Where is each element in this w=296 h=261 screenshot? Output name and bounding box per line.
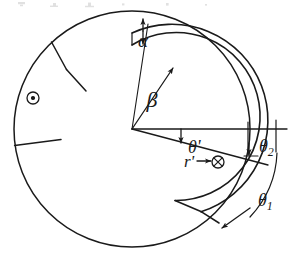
sector-divider-upper-left <box>52 42 67 70</box>
label-theta-2-glyph: θ <box>259 136 268 156</box>
sector-divider-lower-right <box>175 201 202 212</box>
label-theta-2: θ2 <box>259 136 274 159</box>
figure-root: α β θ' r' θ2 θ1 <box>0 0 296 261</box>
label-r-prime: r' <box>184 152 195 171</box>
scan-artifact-specks <box>18 2 207 7</box>
label-theta-1-subscript: 1 <box>267 199 273 213</box>
sector-divider-left <box>15 140 61 146</box>
theta1-arrow <box>222 208 250 228</box>
into-page-symbol-cross <box>214 158 222 166</box>
out-of-page-symbol-dot <box>32 97 35 100</box>
label-theta-1: θ1 <box>258 190 273 213</box>
label-theta-1-glyph: θ <box>258 190 267 210</box>
label-alpha: α <box>138 30 149 51</box>
label-theta-2-subscript: 2 <box>268 145 274 159</box>
middle-arc <box>132 24 268 211</box>
annulus-diagram-svg: α β θ' r' θ2 θ1 <box>0 0 296 261</box>
sector-divider-upper-left-2 <box>67 70 87 92</box>
label-beta: β <box>146 87 158 112</box>
sector-divider-lower-right-outer <box>202 212 220 223</box>
